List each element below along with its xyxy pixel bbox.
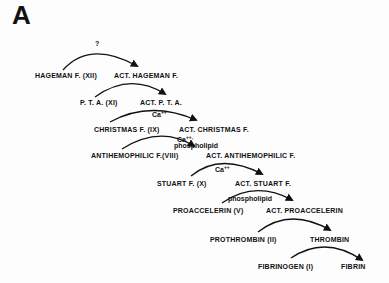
active-fibrin: FIBRIN [341, 263, 366, 271]
cofactor-unknown: ? [95, 40, 99, 48]
cofactor-phospholipid-2: phospholipid [228, 195, 272, 203]
factor-antihemophilic: ANTIHEMOPHILIC F.(VIII) [91, 152, 178, 160]
factor-stuart: STUART F. (X) [157, 180, 207, 188]
active-thrombin: THROMBIN [310, 236, 349, 244]
cofactor-calcium-1: Ca++ [152, 108, 167, 119]
coagulation-cascade-diagram: A ? HAGEMAN F. (XII) ACT. HAGEMAN F. P. … [0, 0, 389, 283]
factor-prothrombin: PROTHROMBIN (II) [210, 236, 277, 244]
cofactor-phospholipid-1: phospholipid [174, 142, 218, 150]
arrow-step-1 [63, 54, 137, 70]
active-pta: ACT. P. T. A. [140, 99, 182, 107]
arrow-step-8 [291, 247, 362, 260]
arrow-step-2 [95, 84, 165, 97]
active-antihemophilic: ACT. ANTIHEMOPHILIC F. [206, 152, 295, 160]
factor-fibrinogen: FIBRINOGEN (I) [258, 263, 313, 271]
factor-pta: P. T. A. (XI) [80, 99, 118, 107]
active-stuart: ACT. STUART F. [235, 180, 291, 188]
cofactor-calcium-3: Ca++ [215, 163, 230, 174]
factor-christmas: CHRISTMAS F. (IX) [94, 126, 160, 134]
active-hageman: ACT. HAGEMAN F. [114, 72, 178, 80]
factor-hageman: HAGEMAN F. (XII) [35, 72, 97, 80]
active-proaccelerin: ACT. PROACCELERIN [266, 207, 343, 215]
arrow-step-7 [258, 219, 330, 232]
factor-proaccelerin: PROACCELERIN (V) [173, 207, 243, 215]
